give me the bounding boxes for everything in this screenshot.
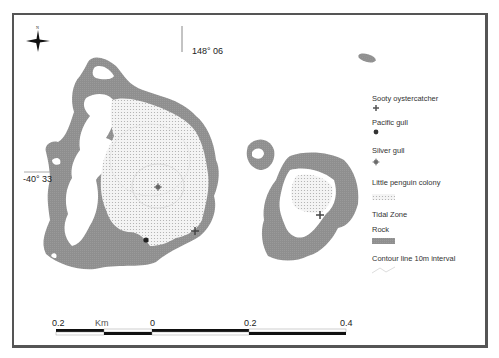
scale-tick-mid: 0.2 (244, 318, 257, 328)
legend-label-little-penguin-colony: Little penguin colony (372, 178, 440, 187)
latitude-label: -40° 33 (23, 174, 52, 184)
scale-bar (56, 329, 346, 335)
legend-label-silver-gull: Silver gull (372, 146, 405, 155)
north-arrow-icon: N (26, 25, 50, 52)
scale-tick-zero: 0 (150, 318, 155, 328)
legend-label-rock: Rock (372, 225, 389, 234)
scale-unit: Km (95, 318, 109, 328)
legend-label-tidal-zone: Tidal Zone (372, 210, 407, 219)
legend-gray-fill-icon (372, 238, 395, 244)
legend-cross-icon (373, 105, 379, 111)
legend-crosshair-dot-icon (373, 159, 380, 166)
north-label: N (36, 25, 39, 30)
scale-tick-left: 0.2 (52, 318, 65, 328)
legend-label-contour-line: Contour line 10m interval (372, 254, 455, 263)
legend-dotted-fill-icon (372, 194, 395, 200)
scale-tick-right: 0.4 (340, 318, 353, 328)
legend-label-sooty-oystercatcher: Sooty oystercatcher (372, 94, 438, 103)
islet-rock (357, 52, 376, 64)
legend-label-pacific-gull: Pacific gull (372, 118, 408, 127)
legend-dark-dot-icon (374, 130, 379, 135)
legend-contour-line-icon (372, 267, 395, 273)
pacific-gull-marker (143, 237, 148, 242)
longitude-label: 148° 06 (192, 46, 223, 56)
